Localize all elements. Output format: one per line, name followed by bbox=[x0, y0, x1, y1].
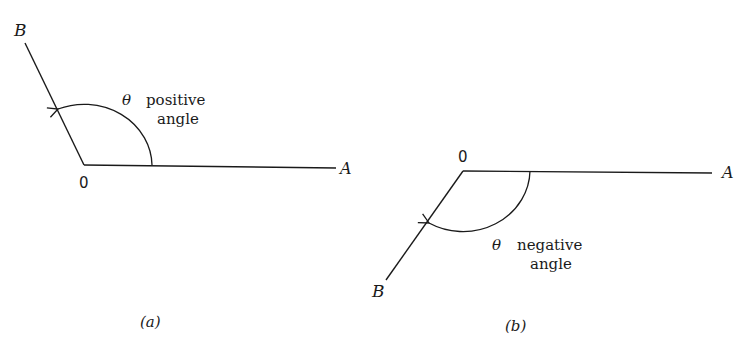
label-a-b: A bbox=[720, 163, 734, 182]
vertex-label-b: 0 bbox=[458, 148, 468, 166]
figure-b: B A 0 θ negative angle (b) bbox=[371, 148, 734, 335]
caption-a: (a) bbox=[140, 313, 161, 331]
angle-text-b-line1: negative bbox=[517, 236, 582, 254]
label-b-b: B bbox=[371, 281, 385, 301]
angle-text-b-line2: angle bbox=[530, 255, 572, 273]
angle-diagram: B A 0 θ positive angle (a) B A 0 θ negat… bbox=[0, 0, 752, 357]
label-a-a: A bbox=[338, 159, 352, 178]
figure-a: B A 0 θ positive angle (a) bbox=[13, 20, 352, 331]
theta-symbol-a: θ bbox=[122, 91, 131, 109]
vertex-label-a: 0 bbox=[79, 174, 89, 192]
ray-0b-a bbox=[25, 43, 84, 165]
caption-b: (b) bbox=[505, 317, 526, 335]
ray-0a-a bbox=[84, 165, 336, 168]
negative-angle-arc bbox=[429, 171, 530, 232]
ray-0b-b bbox=[386, 171, 463, 280]
positive-angle-arc bbox=[58, 104, 152, 165]
theta-symbol-b: θ bbox=[492, 236, 501, 254]
label-b-a: B bbox=[13, 20, 27, 40]
angle-text-a-line2: angle bbox=[157, 110, 199, 128]
angle-text-a-line1: positive bbox=[146, 91, 205, 109]
ray-0a-b bbox=[463, 171, 712, 173]
